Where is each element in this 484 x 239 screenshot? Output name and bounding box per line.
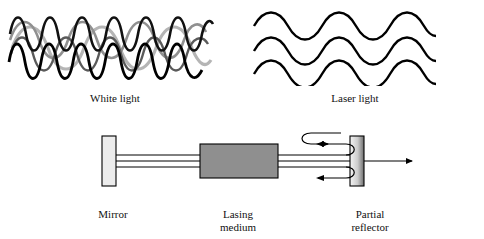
figure-root: White light Laser light [0,0,484,239]
laser-light-wave-3 [254,61,436,87]
feedback-arrow-lower [316,175,324,181]
mirror-label: Mirror [78,208,148,221]
lasing-medium-label: Lasing medium [198,208,278,234]
lasing-medium-label-line1: Lasing [198,208,278,221]
white-light-label: White light [60,92,170,105]
partial-reflector-label-line1: Partial [330,208,410,221]
white-light-waves-svg [6,4,216,86]
lasing-medium-rect [200,144,278,178]
lasing-medium-label-line2: medium [198,221,278,234]
laser-cavity-panel [60,130,430,200]
mirror-rect [102,136,116,186]
laser-light-wave-panel [250,6,440,86]
laser-light-waves-svg [250,6,440,86]
laser-cavity-svg [60,130,430,200]
laser-light-wave-1 [254,13,436,40]
white-light-wave-panel [6,4,216,86]
partial-reflector-label-line2: reflector [330,221,410,234]
partial-reflector-rect [350,136,364,186]
partial-reflector-label: Partial reflector [330,208,410,234]
laser-light-label: Laser light [300,92,410,105]
feedback-arrow-upper [316,141,324,147]
